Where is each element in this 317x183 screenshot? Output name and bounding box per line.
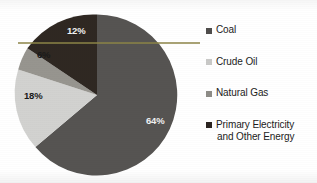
legend-label-crude-oil: Crude Oil [216,56,257,69]
legend-swatch-icon-coal [206,28,212,34]
pie-chart-figure: 64% 18% 6% 12% Coal Crude Oil Natural Ga… [0,0,317,183]
legend-item-primary-electricity[interactable]: Primary Electricityand Other Energy [206,119,317,144]
legend-label-coal: Coal [216,24,236,37]
pie-plot-area: 64% 18% 6% 12% [0,0,200,183]
chart-legend: Coal Crude Oil Natural Gas Primary Elect… [206,24,317,144]
legend-label-natural-gas: Natural Gas [216,87,268,100]
legend-label-primary-electricity: Primary Electricityand Other Energy [216,119,294,144]
legend-label-primary-electricity-line1: Primary Electricity [216,119,294,130]
legend-item-coal[interactable]: Coal [206,24,317,37]
legend-swatch-icon-natural-gas [206,91,212,97]
legend-swatch-icon-crude-oil [206,59,212,65]
legend-label-primary-electricity-line2: and Other Energy [216,131,294,144]
legend-swatch-icon-primary-electricity [206,122,212,128]
legend-item-natural-gas[interactable]: Natural Gas [206,87,317,100]
pie-svg [0,0,200,183]
legend-item-crude-oil[interactable]: Crude Oil [206,56,317,69]
